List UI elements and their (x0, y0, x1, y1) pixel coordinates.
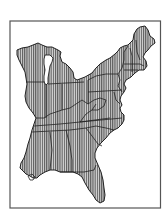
eastern-us-hatched-map (0, 0, 168, 214)
